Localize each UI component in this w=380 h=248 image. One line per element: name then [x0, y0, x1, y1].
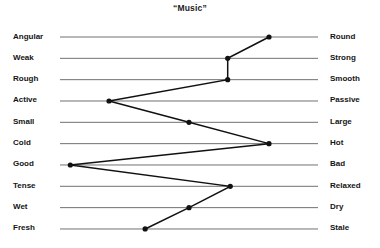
- right-pole-label: Bad: [330, 160, 345, 168]
- profile-data-point: [186, 205, 191, 210]
- profile-line: [70, 37, 269, 229]
- plot-area: [0, 0, 380, 248]
- profile-data-point: [186, 120, 191, 125]
- profile-data-point: [266, 141, 271, 146]
- profile-data-point: [225, 56, 230, 61]
- left-pole-label: Good: [13, 160, 34, 168]
- left-pole-label: Weak: [13, 54, 34, 62]
- right-pole-label: Strong: [330, 54, 356, 62]
- left-pole-label: Angular: [13, 33, 43, 41]
- left-pole-label: Rough: [13, 75, 38, 83]
- right-pole-label: Hot: [330, 139, 343, 147]
- right-pole-label: Stale: [330, 224, 349, 232]
- semantic-differential-chart: “Music” AngularWeakRoughActiveSmallColdG…: [0, 0, 380, 248]
- profile-data-point: [266, 34, 271, 39]
- right-pole-label: Relaxed: [330, 182, 361, 190]
- profile-data-point: [143, 226, 148, 231]
- left-pole-label: Wet: [13, 203, 28, 211]
- left-pole-label: Tense: [13, 182, 36, 190]
- profile-data-point: [106, 98, 111, 103]
- right-pole-label: Smooth: [330, 75, 360, 83]
- right-pole-label: Large: [330, 118, 352, 126]
- left-pole-label: Small: [13, 118, 34, 126]
- left-pole-label: Cold: [13, 139, 31, 147]
- profile-data-point: [225, 77, 230, 82]
- left-pole-label: Active: [13, 96, 37, 104]
- scale-line-group: [60, 37, 318, 229]
- right-pole-label: Round: [330, 33, 355, 41]
- left-pole-label: Fresh: [13, 224, 35, 232]
- profile-point-group: [68, 34, 272, 231]
- right-pole-label: Dry: [330, 203, 343, 211]
- right-pole-label: Passive: [330, 96, 360, 104]
- profile-data-point: [68, 162, 73, 167]
- profile-data-point: [228, 184, 233, 189]
